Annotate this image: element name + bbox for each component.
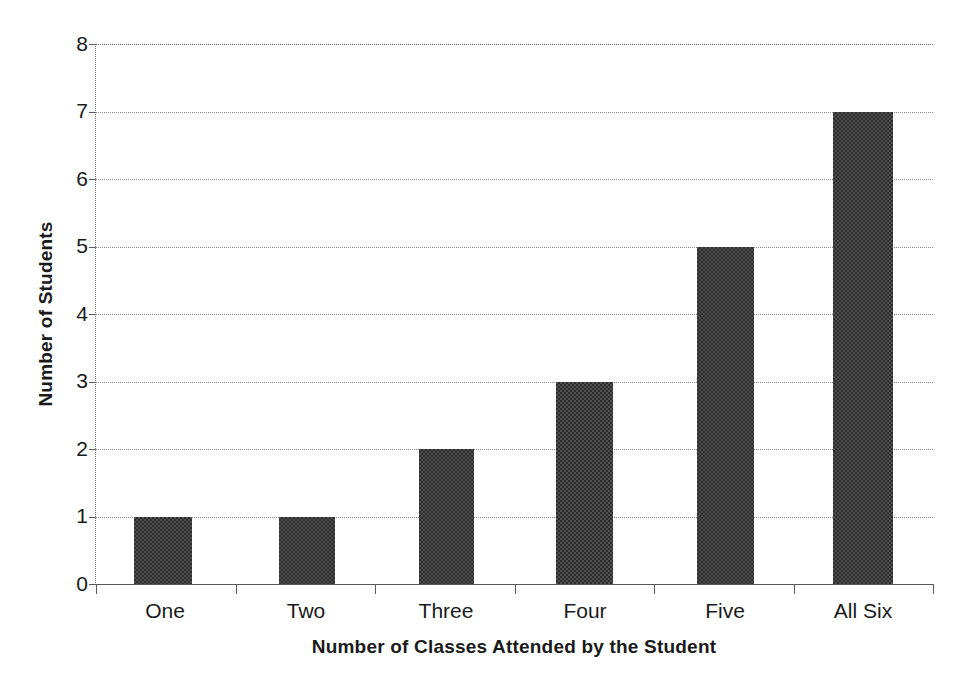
x-tick-mark-2: [375, 585, 376, 594]
gridline-7: [95, 112, 933, 113]
x-tick-label-all-six: All Six: [783, 598, 943, 623]
x-tick-mark-5: [794, 585, 795, 594]
bar-two: [279, 517, 335, 585]
x-tick-label-one: One: [85, 598, 245, 623]
bar-three: [419, 449, 474, 584]
y-tick-label-8: 8: [54, 33, 88, 54]
gridline-5: [95, 247, 933, 248]
y-axis-line: [95, 44, 96, 585]
x-tick-mark-6: [933, 585, 934, 594]
bar-one: [134, 517, 192, 585]
gridline-8: [95, 44, 933, 45]
x-axis-title: Number of Classes Attended by the Studen…: [95, 636, 933, 658]
x-tick-label-three: Three: [366, 598, 526, 623]
y-tick-label-0: 0: [54, 573, 88, 594]
bar-chart: Number of Students 8 7 6 5 4 3 2 1 0: [0, 0, 962, 697]
bar-all-six: [833, 112, 893, 585]
y-tick-label-7: 7: [54, 100, 88, 121]
x-tick-label-four: Four: [505, 598, 665, 623]
x-tick-mark-1: [236, 585, 237, 594]
x-tick-mark-3: [515, 585, 516, 594]
plot-area: [95, 44, 933, 584]
y-tick-label-3: 3: [54, 370, 88, 391]
gridline-1: [95, 517, 933, 518]
gridline-4: [95, 314, 933, 315]
x-tick-label-two: Two: [226, 598, 386, 623]
x-tick-mark-0: [96, 585, 97, 594]
y-tick-label-4: 4: [54, 303, 88, 324]
gridline-2: [95, 449, 933, 450]
x-tick-mark-4: [654, 585, 655, 594]
y-tick-label-5: 5: [54, 235, 88, 256]
gridline-6: [95, 179, 933, 180]
y-tick-label-2: 2: [54, 438, 88, 459]
y-tick-label-1: 1: [54, 505, 88, 526]
bar-four: [556, 382, 613, 585]
y-tick-label-6: 6: [54, 168, 88, 189]
x-tick-label-five: Five: [645, 598, 805, 623]
bar-five: [697, 247, 754, 585]
gridline-3: [95, 382, 933, 383]
